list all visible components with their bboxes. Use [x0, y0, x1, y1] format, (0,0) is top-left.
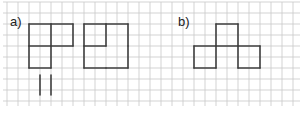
matchstick-puzzle-diagram [0, 0, 308, 113]
label-a: a) [10, 14, 22, 29]
label-b: b) [178, 14, 190, 29]
figure-a-loose-sticks [40, 75, 51, 95]
graph-paper-grid [3, 2, 300, 106]
figure-a-left [29, 24, 73, 68]
